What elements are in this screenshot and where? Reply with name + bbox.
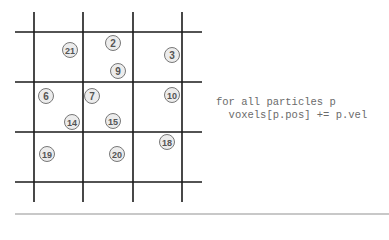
svg-text:7: 7: [89, 91, 95, 102]
particle-3: 3: [165, 48, 180, 63]
pseudocode: for all particles p voxels[p.pos] += p.v…: [216, 96, 367, 122]
svg-text:10: 10: [167, 91, 177, 101]
svg-text:6: 6: [43, 91, 49, 102]
svg-text:20: 20: [112, 150, 122, 160]
svg-text:18: 18: [162, 138, 172, 148]
svg-text:2: 2: [110, 38, 116, 49]
svg-text:14: 14: [67, 118, 77, 128]
particle-6: 6: [39, 89, 54, 104]
particle-18: 18: [160, 135, 175, 150]
code-line-1: for all particles p: [216, 96, 367, 109]
svg-text:3: 3: [169, 50, 175, 61]
particle-2: 2: [106, 36, 121, 51]
svg-text:19: 19: [42, 150, 52, 160]
particles: 2123967101415181920: [39, 36, 180, 162]
svg-text:21: 21: [65, 46, 75, 56]
particle-19: 19: [40, 147, 55, 162]
particle-10: 10: [165, 88, 180, 103]
code-line-2: voxels[p.pos] += p.vel: [216, 109, 367, 122]
particle-15: 15: [106, 114, 121, 129]
particle-21: 21: [63, 43, 78, 58]
svg-text:15: 15: [108, 117, 118, 127]
bottom-separator: [15, 213, 389, 215]
particle-20: 20: [110, 147, 125, 162]
particle-7: 7: [85, 89, 100, 104]
particle-9: 9: [111, 64, 126, 79]
particle-14: 14: [65, 115, 80, 130]
svg-text:9: 9: [115, 66, 121, 77]
